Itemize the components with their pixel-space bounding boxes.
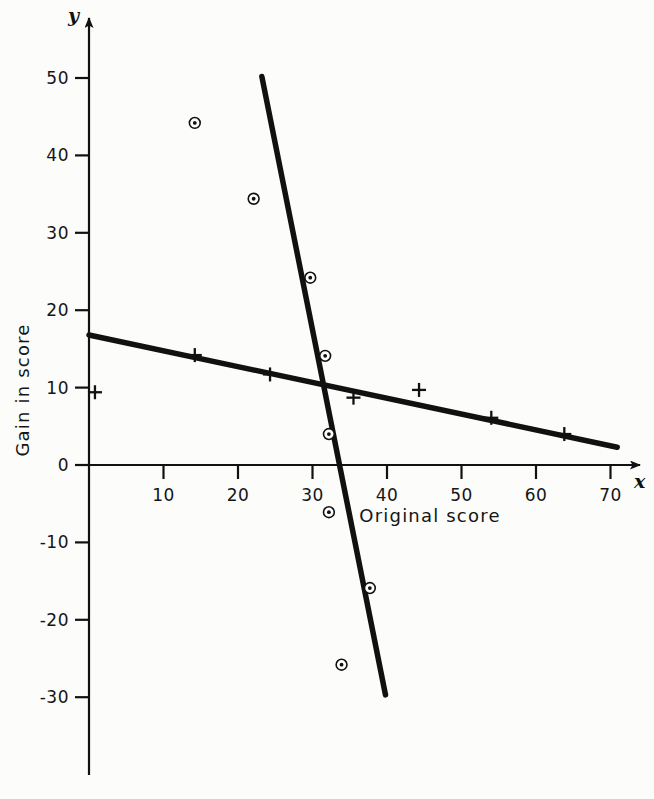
y-tick-label: 10 [0,378,69,398]
x-tick-label: 30 [301,485,324,505]
circled-dot-marker [323,429,334,440]
x-axis-title: Original score [359,505,500,526]
circled-dot-marker [323,507,334,518]
y-tick-label: 40 [0,145,69,165]
circled-dot-marker [320,350,331,361]
trend-lines [89,76,617,694]
y-tick-label: 30 [0,223,69,243]
x-tick-label: 70 [599,485,622,505]
y-tick-label: -20 [0,610,69,630]
scatter-plot-figure: -30-20-1001020304050 10203040506070 Orig… [0,0,654,799]
y-tick-label: -30 [0,687,69,707]
data-markers [88,117,571,670]
circled-dot-marker [336,659,347,670]
y-tick-label: 0 [0,455,69,475]
plus-marker [412,383,426,397]
axes [89,18,640,775]
x-axis-letter: x [634,470,645,492]
y-axis-letter: y [68,4,79,26]
y-tick-label: -10 [0,532,69,552]
circled-dot-marker [248,193,259,204]
circled-dot-marker [305,272,316,283]
x-tick-label: 20 [227,485,250,505]
plus-marker [263,367,277,381]
y-tick-label: 50 [0,68,69,88]
circled-dot-marker [189,117,200,128]
y-axis-tick-marks [75,78,89,697]
y-axis-title: Gain in score [12,323,33,456]
x-tick-label: 40 [376,485,399,505]
x-tick-label: 10 [152,485,175,505]
x-axis-tick-marks [164,465,611,479]
y-tick-label: 20 [0,300,69,320]
circled-dot-marker [364,583,375,594]
x-tick-label: 50 [450,485,473,505]
x-tick-label: 60 [525,485,548,505]
plot-canvas [0,0,654,799]
